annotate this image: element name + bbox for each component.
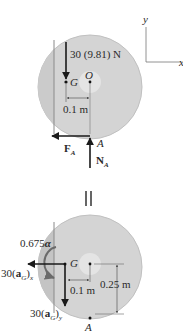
rigid-body-diagram: y x 30 (9.81) N G O 0.1 m A FA NA [0, 0, 183, 336]
inertia-x-label: 30(aG)x [1, 267, 34, 282]
equals-sign [86, 191, 91, 206]
point-g-dot [64, 263, 67, 266]
coordinate-axes: y x [142, 13, 183, 68]
inertia-y-label: 30(aG)y [30, 307, 63, 322]
point-g-label: G [70, 257, 78, 269]
point-a-label: A [84, 321, 92, 333]
y-axis-label: y [142, 13, 148, 25]
kinetic-diagram: 0.675α 30(aG)x 30(aG)y G 0.1 m 0.25 m A [1, 210, 142, 333]
point-o-dot [89, 81, 92, 84]
point-g-label: G [70, 76, 78, 88]
point-a-dot [89, 317, 92, 320]
friction-force-label: FA [64, 142, 76, 157]
dimension-0-1m-label: 0.1 m [63, 103, 89, 115]
point-a-label: A [96, 137, 104, 149]
normal-force-label: NA [96, 154, 109, 169]
x-axis-label: x [178, 56, 183, 68]
weight-label: 30 (9.81) N [70, 48, 121, 61]
moment-label: 0.675α [20, 237, 52, 249]
point-o-label: O [85, 69, 93, 81]
free-body-diagram: y x 30 (9.81) N G O 0.1 m A FA NA [36, 13, 183, 169]
point-o-dot [89, 263, 92, 266]
dimension-0-1m-label: 0.1 m [70, 284, 96, 296]
point-g-dot [64, 80, 67, 83]
dimension-0-25m-label: 0.25 m [100, 278, 131, 290]
